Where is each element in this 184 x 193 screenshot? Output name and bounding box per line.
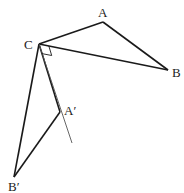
label-c: C — [24, 38, 33, 51]
segment-cb-prime — [14, 44, 39, 177]
segment-ca — [39, 22, 103, 44]
extension-line — [39, 44, 72, 143]
segment-cb — [39, 44, 168, 70]
rotation-diagram — [0, 0, 184, 193]
label-b: B — [172, 66, 181, 79]
label-a: A — [98, 6, 107, 19]
label-a-prime: A′ — [64, 104, 76, 117]
label-b-prime: B′ — [8, 180, 20, 193]
right-angle-marker — [42, 46, 52, 56]
